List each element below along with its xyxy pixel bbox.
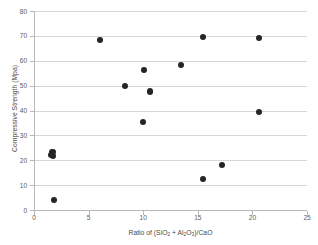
x-tick-label: 15: [188, 214, 208, 221]
data-point: [219, 162, 225, 168]
data-point: [200, 34, 206, 40]
x-tick-label: 10: [133, 214, 153, 221]
gridline-y-60: [34, 61, 307, 62]
scatter-chart: 01020304050607080 0510152025 Ratio of (S…: [0, 0, 318, 245]
data-point: [51, 197, 57, 203]
data-point: [50, 153, 56, 159]
gridline-y-70: [34, 36, 307, 37]
gridline-y-30: [34, 135, 307, 136]
y-tick-mark-40: [30, 111, 34, 112]
gridline-y-40: [34, 111, 307, 112]
x-tick-label: 5: [79, 214, 99, 221]
gridline-y-50: [34, 86, 307, 87]
data-point: [97, 37, 103, 43]
y-tick-mark-60: [30, 61, 34, 62]
plot-area: [34, 11, 307, 210]
gridline-y-80: [34, 11, 307, 12]
y-axis-line: [34, 11, 35, 210]
x-tick-label: 0: [24, 214, 44, 221]
y-tick-mark-10: [30, 185, 34, 186]
data-point: [140, 119, 146, 125]
y-tick-mark-50: [30, 86, 34, 87]
y-tick-mark-30: [30, 135, 34, 136]
x-tick-label: 25: [297, 214, 317, 221]
data-point: [200, 176, 206, 182]
y-tick-label: 0: [0, 207, 27, 214]
gridline-y-20: [34, 160, 307, 161]
y-tick-label: 80: [0, 8, 27, 15]
x-axis-line: [34, 210, 307, 211]
gridline-y-10: [34, 185, 307, 186]
data-point: [122, 83, 128, 89]
data-point: [178, 62, 184, 68]
data-point: [141, 67, 147, 73]
data-point: [256, 35, 262, 41]
y-axis-title: Compressive Strength (Mpa): [10, 29, 19, 189]
x-tick-label: 20: [242, 214, 262, 221]
data-point: [147, 88, 153, 94]
x-axis-title: Ratio of (SiO2 + Al2O3)/CaO: [34, 228, 307, 239]
y-tick-mark-70: [30, 36, 34, 37]
y-tick-mark-20: [30, 160, 34, 161]
y-tick-mark-80: [30, 11, 34, 12]
data-point: [256, 109, 262, 115]
